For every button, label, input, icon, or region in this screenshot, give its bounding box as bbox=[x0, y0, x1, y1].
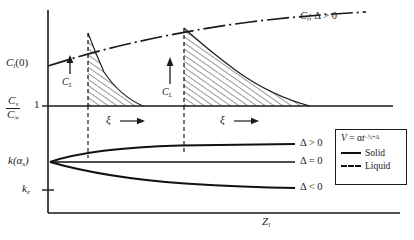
xi-arrow-2 bbox=[234, 118, 259, 124]
figure-graphics bbox=[0, 0, 414, 240]
legend-formula: V = αt−½+Δ bbox=[341, 134, 401, 144]
figure-canvas: Ci(0) Cs C∞ 1 Ci; Δ > 0 CL CL ξ ξ k(αs) … bbox=[0, 0, 414, 240]
label-xi-2: ξ bbox=[220, 114, 225, 125]
legend-box: V = αt−½+Δ Solid Liquid bbox=[335, 129, 407, 185]
cl-arrow-2 bbox=[167, 57, 174, 84]
curve-delta-negative bbox=[50, 162, 295, 188]
label-delta-zero: Δ = 0 bbox=[300, 156, 323, 167]
dashed-line-swatch bbox=[341, 165, 361, 167]
legend-row-solid: Solid bbox=[341, 148, 401, 158]
label-cl-2: CL bbox=[162, 87, 172, 98]
solid-line-swatch bbox=[341, 152, 361, 154]
label-z-axis: Zl bbox=[262, 216, 270, 229]
legend-label-solid: Solid bbox=[365, 148, 385, 158]
label-cl-1: CL bbox=[62, 77, 72, 88]
boundary-layer-region-2 bbox=[184, 28, 310, 106]
label-k-e: ke bbox=[22, 183, 30, 196]
label-k-alpha-s: k(αs) bbox=[8, 155, 29, 168]
label-xi-1: ξ bbox=[106, 114, 111, 125]
boundary-layer-region-1 bbox=[88, 33, 143, 106]
legend-label-liquid: Liquid bbox=[365, 161, 390, 171]
legend-row-liquid: Liquid bbox=[341, 161, 401, 171]
cl-arrow-1 bbox=[67, 55, 74, 74]
curve-delta-positive bbox=[50, 144, 295, 162]
label-cs-over-cinf: Cs C∞ bbox=[6, 95, 20, 122]
label-delta-negative: Δ < 0 bbox=[300, 182, 323, 193]
label-interface-curve: Ci; Δ > 0 bbox=[300, 11, 337, 22]
label-baseline-one: 1 bbox=[34, 99, 40, 110]
label-ci-zero: Ci(0) bbox=[6, 57, 28, 70]
xi-arrow-1 bbox=[120, 118, 145, 124]
label-delta-positive: Δ > 0 bbox=[300, 138, 323, 149]
